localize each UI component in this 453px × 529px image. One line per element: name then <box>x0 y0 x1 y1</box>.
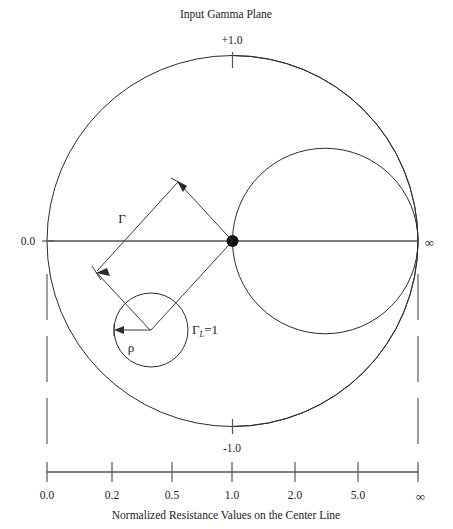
gamma-left-label: 0.0 <box>21 235 36 247</box>
axis-tick-label-2: 0.5 <box>165 489 180 501</box>
figure-title: Input Gamma Plane <box>180 8 272 21</box>
axis-tick-label-4: 2.0 <box>288 489 303 501</box>
smith-chart-svg: Input Gamma Plane +1.0 -1.0 0.0 ∞ <box>0 0 453 529</box>
gamma-load-value: =1 <box>204 322 218 337</box>
rho-label: ρ <box>128 340 135 355</box>
gamma-load-label: ΓL=1 <box>192 322 218 339</box>
smith-chart-figure: Input Gamma Plane +1.0 -1.0 0.0 ∞ <box>0 0 453 529</box>
rho-arrowhead <box>114 326 124 334</box>
gamma-tip-cap-upper <box>171 178 186 186</box>
gamma-right-label: ∞ <box>425 235 434 250</box>
axis-tick-label-3: 1.0 <box>225 489 240 501</box>
axis-tick-label-6: ∞ <box>416 489 425 504</box>
figure-caption: Normalized Resistance Values on the Cent… <box>112 509 340 521</box>
gamma-vector-upper <box>179 183 233 241</box>
axis-tick-label-0: 0.0 <box>40 489 55 501</box>
gamma-label: Γ <box>118 211 126 226</box>
gamma-top-label: +1.0 <box>222 34 243 46</box>
resistance-axis-tick-labels: 0.0 0.2 0.5 1.0 2.0 5.0 ∞ <box>40 489 425 504</box>
axis-tick-label-1: 0.2 <box>105 489 120 501</box>
gamma-vector-lower <box>151 241 233 330</box>
gamma-bottom-label: -1.0 <box>223 442 241 454</box>
gamma-vector-upper-left <box>97 182 178 271</box>
gamma-vector-lower-left <box>96 272 150 330</box>
axis-tick-label-5: 5.0 <box>351 489 366 501</box>
